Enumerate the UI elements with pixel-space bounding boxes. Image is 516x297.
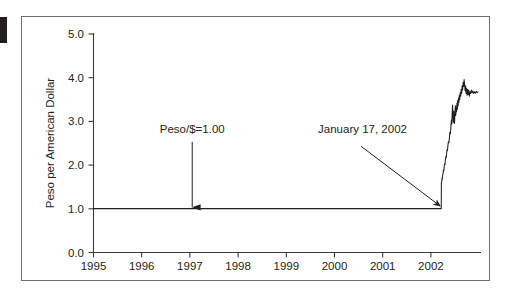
y-tick-label-1: 1.0 — [68, 203, 84, 215]
y-tick-label-5: 5.0 — [68, 28, 84, 40]
x-tick-label-1995: 1995 — [81, 260, 107, 272]
x-tick-label-2001: 2001 — [370, 260, 396, 272]
peg-annotation-label: Peso/$=1.00 — [160, 123, 225, 135]
x-tick-label-1997: 1997 — [177, 260, 203, 272]
y-axis-ticks — [89, 34, 94, 253]
figure-root: 0.0 1.0 2.0 3.0 4.0 5.0 Peso per America… — [0, 0, 516, 297]
x-tick-label-1999: 1999 — [274, 260, 300, 272]
x-axis-ticks — [94, 253, 431, 258]
x-tick-label-1996: 1996 — [129, 260, 155, 272]
devaluation-annotation-label: January 17, 2002 — [318, 123, 407, 135]
exchange-rate-line-chart: 0.0 1.0 2.0 3.0 4.0 5.0 Peso per America… — [0, 0, 516, 297]
devaluation-annotation-group: January 17, 2002 — [318, 123, 440, 206]
y-tick-label-0: 0.0 — [68, 247, 84, 259]
x-tick-label-2000: 2000 — [322, 260, 348, 272]
x-axis-group: 1995 1996 1997 1998 1999 2000 2001 2002 — [81, 253, 481, 273]
y-tick-label-4: 4.0 — [68, 72, 84, 84]
x-tick-label-2002: 2002 — [418, 260, 444, 272]
y-tick-label-2: 2.0 — [68, 159, 84, 171]
y-axis-group: 0.0 1.0 2.0 3.0 4.0 5.0 Peso per America… — [44, 28, 94, 259]
y-axis-title: Peso per American Dollar — [44, 78, 56, 209]
devaluation-annotation-arrow — [361, 146, 440, 206]
x-tick-label-1998: 1998 — [225, 260, 251, 272]
y-tick-label-3: 3.0 — [68, 115, 84, 127]
peg-annotation-group: Peso/$=1.00 — [160, 123, 225, 207]
peso-dollar-series-line — [94, 80, 479, 209]
